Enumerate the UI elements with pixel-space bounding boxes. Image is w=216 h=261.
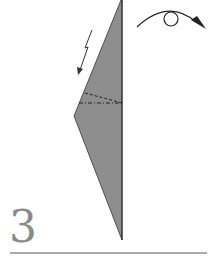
zigzag-arrow-icon xyxy=(77,30,92,75)
step-number: 3 xyxy=(9,205,37,249)
origami-diagram: 3 xyxy=(0,0,216,261)
paper-flap xyxy=(74,0,122,240)
turn-over-icon xyxy=(137,11,206,29)
